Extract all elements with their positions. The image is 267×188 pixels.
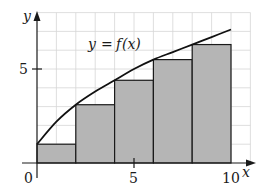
x-tick-label-5: 5 xyxy=(129,170,138,186)
riemann-bar xyxy=(37,144,76,163)
origin-label: 0 xyxy=(24,170,33,186)
riemann-bar xyxy=(115,80,154,163)
riemann-bar xyxy=(76,105,115,163)
curve-label-eq: = xyxy=(101,36,113,52)
x-tick-label-10: 10 xyxy=(222,170,240,186)
curve-label-arg: (x) xyxy=(122,36,141,52)
x-axis-label: x xyxy=(242,164,250,180)
riemann-bar xyxy=(153,60,192,163)
curve-label: y = f (x) xyxy=(87,36,141,52)
riemann-sum-chart: y x 0 5 10 5 y = f (x) xyxy=(0,0,267,188)
y-axis-label: y xyxy=(22,8,32,24)
curve-label-y: y xyxy=(87,36,97,52)
riemann-bar xyxy=(192,45,231,163)
y-tick-label-5: 5 xyxy=(19,61,28,77)
